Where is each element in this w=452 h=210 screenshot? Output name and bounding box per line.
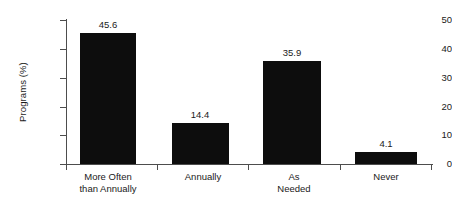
x-tick-boundary-2 xyxy=(248,165,249,170)
y-axis-title: Programs (%) xyxy=(16,17,30,167)
x-category-label-line-1: More Often xyxy=(60,171,156,183)
y-tick-40 xyxy=(60,49,66,50)
x-category-label-more-often-than-annually: More Often than Annually xyxy=(60,171,156,195)
x-tick-boundary-3 xyxy=(340,165,341,170)
bar-chart-figure: Programs (%) 0 10 20 30 40 50 45.6 14.4 xyxy=(0,0,452,210)
bar-annually xyxy=(172,123,229,164)
bar-value-annually: 14.4 xyxy=(170,109,230,120)
y-tick-label-10: 10 xyxy=(412,130,452,140)
x-tick-boundary-1 xyxy=(157,165,158,170)
x-axis-line xyxy=(66,164,433,165)
x-category-label-line-1: As xyxy=(246,171,342,183)
x-category-label-line-2: Needed xyxy=(246,183,342,195)
bar-value-as-needed: 35.9 xyxy=(262,47,322,58)
x-tick-boundary-4 xyxy=(431,165,432,170)
y-tick-label-0: 0 xyxy=(412,159,452,169)
x-category-label-as-needed: As Needed xyxy=(246,171,342,195)
y-tick-label-40: 40 xyxy=(412,44,452,54)
x-category-label-line-1: Annually xyxy=(155,171,251,183)
bar-value-more-often-than-annually: 45.6 xyxy=(78,19,138,30)
x-category-label-line-2: than Annually xyxy=(60,183,156,195)
y-tick-label-50: 50 xyxy=(412,15,452,25)
bar-more-often-than-annually xyxy=(80,33,136,164)
x-tick-boundary-0 xyxy=(66,165,67,170)
y-tick-50 xyxy=(60,20,66,21)
bar-never xyxy=(355,152,417,164)
y-tick-label-20: 20 xyxy=(412,102,452,112)
x-category-label-line-1: Never xyxy=(338,171,434,183)
bar-value-never: 4.1 xyxy=(356,138,416,149)
y-tick-30 xyxy=(60,78,66,79)
y-tick-10 xyxy=(60,135,66,136)
x-category-label-never: Never xyxy=(338,171,434,183)
y-tick-label-30: 30 xyxy=(412,73,452,83)
x-category-label-annually: Annually xyxy=(155,171,251,183)
bar-as-needed xyxy=(263,61,321,164)
y-tick-20 xyxy=(60,107,66,108)
y-axis-line xyxy=(66,19,67,165)
